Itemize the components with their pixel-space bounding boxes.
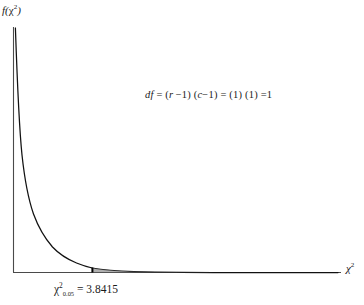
x-axis-label: χ2 <box>346 262 354 274</box>
y-axis-label: f(χ2) <box>2 4 21 16</box>
critical-value-label: χ20.05 = 3.8415 <box>54 282 118 298</box>
df-annotation: df = (r −1) (c−1) = (1) (1) =1 <box>145 90 272 101</box>
chi-square-density-curve <box>15 28 338 273</box>
chi-square-plot <box>0 0 364 305</box>
chi-square-distribution-figure: f(χ2) χ2 df = (r −1) (c−1) = (1) (1) =1 … <box>0 0 364 305</box>
